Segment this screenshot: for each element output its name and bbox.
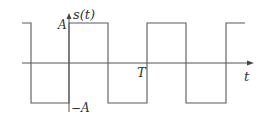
x-axis-arrow-icon — [247, 61, 254, 66]
y-axis-arrow-icon — [67, 13, 72, 19]
y-axis-label: s(t) — [73, 7, 95, 22]
amplitude-neg-label: −A — [71, 101, 90, 115]
square-wave-diagram: s(t) A −A T t — [0, 0, 266, 116]
x-axis-label: t — [244, 69, 250, 84]
amplitude-pos-label: A — [57, 18, 67, 32]
period-label: T — [137, 65, 147, 80]
